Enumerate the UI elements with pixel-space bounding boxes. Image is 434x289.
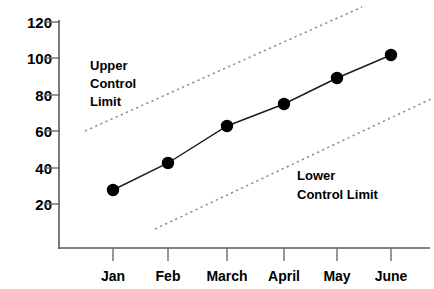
lower-control-limit-label: Lower Control Limit bbox=[297, 168, 379, 202]
x-tick-label: Feb bbox=[156, 268, 181, 284]
x-tick-label: March bbox=[206, 268, 247, 284]
upper-control-limit-line-2: Control bbox=[90, 76, 136, 91]
lower-control-limit-line-2: Control Limit bbox=[297, 187, 379, 202]
data-point-marker bbox=[331, 72, 343, 84]
data-point-marker bbox=[162, 157, 174, 169]
x-axis-tick-labels: Jan Feb March April May June bbox=[101, 268, 408, 284]
upper-control-limit-label: Upper Control Limit bbox=[90, 58, 136, 109]
data-point-marker bbox=[107, 184, 119, 196]
x-tick-label: April bbox=[268, 268, 300, 284]
chart-canvas: 120 100 80 60 40 20 bbox=[0, 0, 434, 289]
x-axis-ticks bbox=[113, 248, 391, 261]
data-point-marker bbox=[221, 120, 233, 132]
upper-control-limit-line-1: Upper bbox=[90, 58, 128, 73]
upper-control-limit-line-3: Limit bbox=[90, 94, 122, 109]
data-point-marker bbox=[278, 98, 290, 110]
lower-control-limit-line bbox=[155, 99, 431, 229]
lower-control-limit-line-1: Lower bbox=[297, 168, 335, 183]
x-tick-label: Jan bbox=[101, 268, 125, 284]
y-axis-tick-labels: 120 100 80 60 40 20 bbox=[27, 14, 52, 213]
x-tick-label: June bbox=[375, 268, 408, 284]
data-series-line bbox=[113, 55, 391, 190]
data-point-marker bbox=[385, 49, 397, 61]
x-tick-label: May bbox=[323, 268, 350, 284]
control-chart: 120 100 80 60 40 20 bbox=[0, 0, 434, 289]
